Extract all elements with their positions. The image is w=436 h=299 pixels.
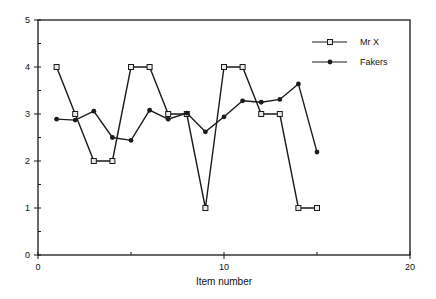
series-mr-x [54, 65, 319, 211]
square-marker-icon [129, 65, 134, 70]
x-tick-label: 20 [405, 262, 415, 272]
square-marker-icon [315, 206, 320, 211]
square-marker-icon [203, 206, 208, 211]
x-tick-label: 10 [219, 262, 229, 272]
square-marker-icon [240, 65, 245, 70]
x-tick-label: 0 [35, 262, 40, 272]
dot-marker-icon [166, 117, 171, 122]
series-fakers [54, 82, 319, 155]
square-marker-icon [277, 112, 282, 117]
dot-marker-icon [73, 118, 78, 123]
line-chart: 012345 01020 Item number Mr XFakers [0, 0, 436, 299]
dot-marker-icon [222, 114, 227, 119]
y-tick-label: 0 [25, 250, 30, 260]
y-tick-label: 4 [25, 62, 30, 72]
dot-marker-icon [296, 82, 301, 87]
y-tick-label: 1 [25, 203, 30, 213]
square-marker-icon [328, 40, 333, 45]
legend-label: Mr X [360, 37, 379, 47]
dot-marker-icon [110, 135, 115, 140]
square-marker-icon [54, 65, 59, 70]
square-marker-icon [73, 112, 78, 117]
dot-marker-icon [259, 100, 264, 105]
y-tick-label: 3 [25, 109, 30, 119]
dot-marker-icon [277, 97, 282, 102]
square-marker-icon [166, 112, 171, 117]
plot-frame [38, 20, 410, 255]
dot-marker-icon [129, 138, 134, 143]
dot-marker-icon [184, 111, 189, 116]
legend-item: Fakers [312, 57, 388, 67]
y-tick-label: 5 [25, 15, 30, 25]
legend: Mr XFakers [312, 37, 388, 67]
square-marker-icon [147, 65, 152, 70]
dot-marker-icon [240, 98, 245, 103]
square-marker-icon [296, 206, 301, 211]
dot-marker-icon [315, 150, 320, 155]
x-axis-title: Item number [196, 276, 253, 287]
square-marker-icon [110, 159, 115, 164]
square-marker-icon [222, 65, 227, 70]
dot-marker-icon [328, 60, 333, 65]
series-line [57, 84, 317, 152]
square-marker-icon [259, 112, 264, 117]
y-tick-label: 2 [25, 156, 30, 166]
series-layer [54, 65, 319, 211]
plot-border [38, 20, 410, 255]
legend-item: Mr X [312, 37, 379, 47]
square-marker-icon [91, 159, 96, 164]
dot-marker-icon [147, 108, 152, 113]
dot-marker-icon [203, 129, 208, 134]
series-line [57, 67, 317, 208]
legend-label: Fakers [360, 57, 388, 67]
dot-marker-icon [91, 109, 96, 114]
dot-marker-icon [54, 117, 59, 122]
